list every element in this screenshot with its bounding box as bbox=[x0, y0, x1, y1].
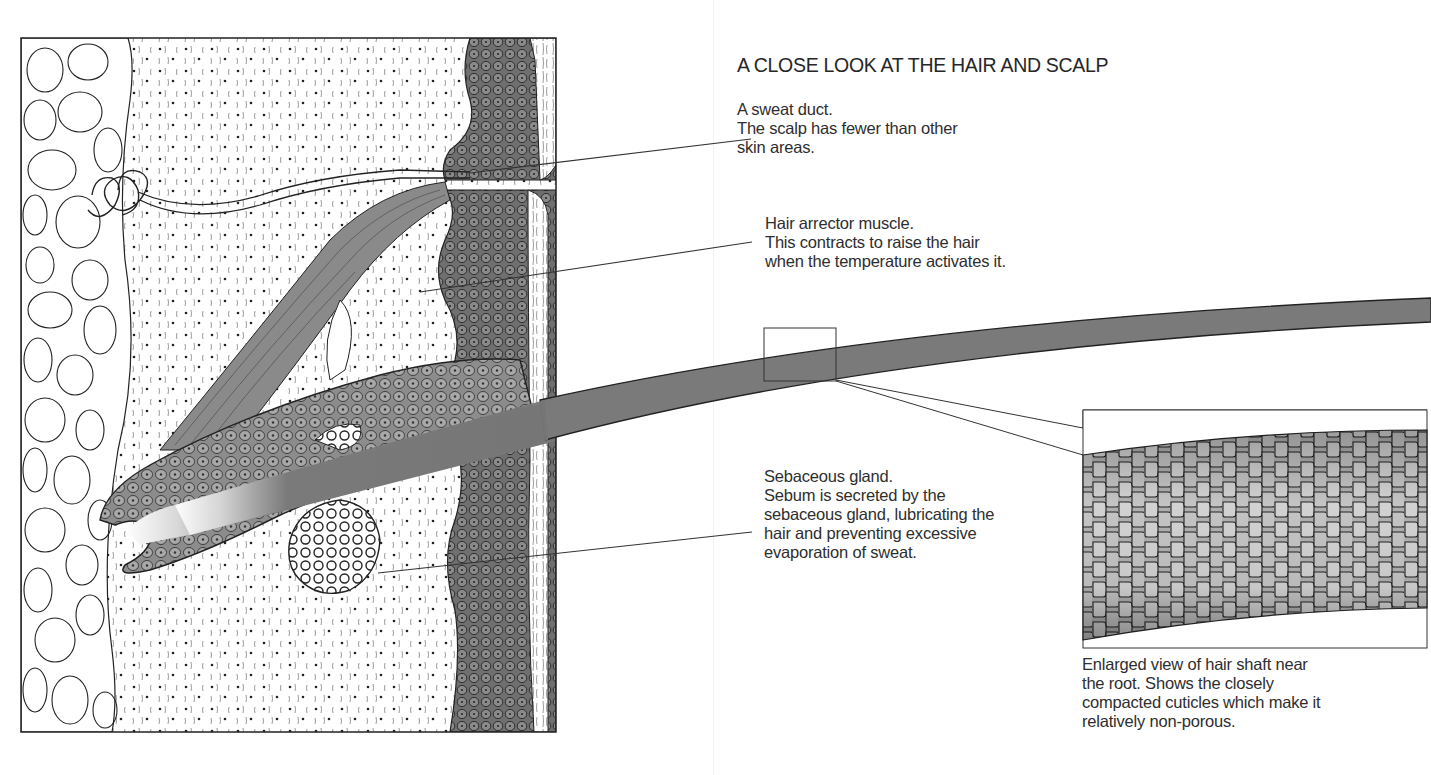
zoom-connector-bottom bbox=[836, 381, 1083, 455]
caption-line: relatively non-porous. bbox=[1082, 712, 1320, 731]
skin-cross-section bbox=[21, 38, 560, 732]
page: A CLOSE LOOK AT THE HAIR AND SCALP A swe… bbox=[0, 0, 1431, 775]
label-line: evaporation of sweat. bbox=[764, 543, 994, 562]
label-line: Hair arrector muscle. bbox=[765, 214, 1006, 233]
label-line: hair and preventing excessive bbox=[764, 524, 994, 543]
caption-enlarged-view: Enlarged view of hair shaft near the roo… bbox=[1082, 655, 1320, 731]
page-title: A CLOSE LOOK AT THE HAIR AND SCALP bbox=[737, 54, 1108, 77]
caption-line: compacted cuticles which make it bbox=[1082, 693, 1320, 712]
label-line: This contracts to raise the hair bbox=[765, 233, 1006, 252]
label-line: Sebum is secreted by the bbox=[764, 486, 994, 505]
label-line: when the temperature activates it. bbox=[765, 252, 1006, 271]
label-line: The scalp has fewer than other bbox=[737, 119, 958, 138]
enlarged-hair-inset bbox=[1083, 410, 1427, 648]
label-line: Sebaceous gland. bbox=[764, 467, 994, 486]
label-line: sebaceous gland, lubricating the bbox=[764, 505, 994, 524]
caption-line: Enlarged view of hair shaft near bbox=[1082, 655, 1320, 674]
label-arrector-muscle: Hair arrector muscle. This contracts to … bbox=[765, 214, 1006, 271]
label-line: A sweat duct. bbox=[737, 100, 958, 119]
label-sweat-duct: A sweat duct. The scalp has fewer than o… bbox=[737, 100, 958, 157]
caption-line: the root. Shows the closely bbox=[1082, 674, 1320, 693]
label-sebaceous-gland: Sebaceous gland. Sebum is secreted by th… bbox=[764, 467, 994, 562]
label-line: skin areas. bbox=[737, 138, 958, 157]
